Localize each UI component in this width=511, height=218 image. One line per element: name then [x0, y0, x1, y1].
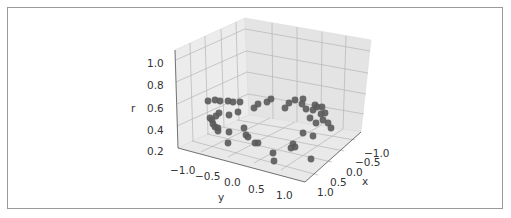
data-point — [292, 97, 299, 104]
data-point — [320, 117, 327, 124]
y-axis-label: y — [218, 191, 224, 203]
data-point — [217, 98, 224, 105]
x-axis-label: x — [362, 175, 368, 187]
data-point — [245, 134, 252, 141]
z-tick: 0.8 — [147, 79, 164, 91]
data-point — [255, 101, 262, 108]
data-point — [268, 96, 275, 103]
data-point — [226, 112, 233, 119]
z-tick: 0.4 — [147, 124, 164, 136]
data-point — [310, 133, 317, 140]
data-point — [205, 98, 212, 105]
data-point — [328, 125, 335, 132]
scatter-3d-plot: 0.2 0.4 0.6 0.8 1.0 r −1.0 −0.5 0.0 0.5 … — [0, 0, 511, 218]
data-point — [207, 115, 214, 122]
data-point — [237, 99, 244, 106]
data-point — [241, 125, 248, 132]
data-point — [313, 120, 320, 127]
data-point — [271, 158, 278, 165]
z-tick: 0.6 — [147, 102, 164, 114]
data-point — [303, 106, 310, 113]
data-point — [255, 140, 262, 147]
data-point — [225, 140, 232, 147]
data-point — [215, 128, 222, 135]
z-tick: 1.0 — [147, 57, 164, 69]
data-point — [322, 110, 329, 117]
data-point — [286, 100, 293, 107]
data-point — [226, 129, 233, 136]
data-point — [270, 150, 277, 157]
z-axis-label: r — [131, 102, 136, 114]
data-point — [319, 104, 326, 111]
y-tick: 0.5 — [248, 183, 265, 195]
y-tick: −0.5 — [195, 170, 221, 182]
data-point — [288, 145, 295, 152]
y-tick: 0.0 — [224, 176, 241, 188]
data-point — [312, 102, 319, 109]
data-point — [235, 109, 242, 116]
data-point — [300, 130, 307, 137]
z-tick: 0.2 — [147, 145, 164, 157]
data-point — [308, 156, 315, 163]
y-tick: −1.0 — [170, 164, 196, 176]
x-tick: 0.0 — [346, 166, 363, 178]
z-axis-ticks: 0.2 0.4 0.6 0.8 1.0 r — [131, 57, 164, 157]
y-tick: 1.0 — [276, 189, 293, 201]
data-point — [307, 115, 314, 122]
x-tick: 1.0 — [317, 186, 334, 198]
data-point — [230, 99, 237, 106]
